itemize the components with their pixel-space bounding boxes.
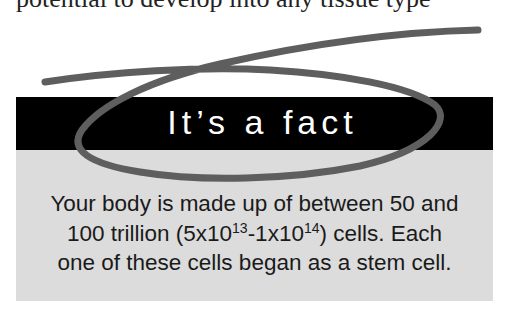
fact-line-1: Your body is made up of between 50 and (16, 189, 493, 219)
fact-callout-box: It’s a fact Your body is made up of betw… (16, 97, 493, 301)
fact-line-3: one of these cells began as a stem cell. (16, 248, 493, 278)
fact-text: Your body is made up of between 50 and 1… (16, 189, 493, 278)
fact-line-2-part: -1x10 (248, 221, 304, 246)
fact-line-2: 100 trillion (5x1013-1x1014) cells. Each (16, 219, 493, 249)
fact-body-panel: Your body is made up of between 50 and 1… (16, 150, 493, 301)
fact-line-2-part: ) cells. Each (320, 221, 443, 246)
fact-line-2-part: 100 trillion (5x10 (67, 221, 232, 246)
preceding-paragraph-text: potential to develop into any tissue typ… (16, 0, 430, 14)
fact-header-band: It’s a fact (16, 97, 493, 150)
fact-title: It’s a fact (167, 103, 357, 142)
exponent-14: 14 (304, 220, 320, 236)
exponent-13: 13 (232, 220, 248, 236)
